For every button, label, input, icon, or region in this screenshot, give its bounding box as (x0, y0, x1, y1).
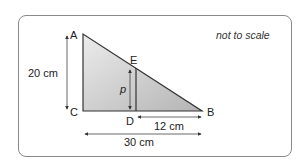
vertex-label-e: E (130, 54, 137, 66)
label-p: p (119, 83, 126, 95)
triangle-diagram: A C B D E 20 cm p 12 cm 30 cm not to sca… (0, 0, 305, 168)
vertex-label-a: A (70, 29, 78, 41)
not-to-scale-note: not to scale (216, 29, 270, 41)
triangle-acb (83, 34, 202, 111)
vertex-label-b: B (207, 106, 214, 118)
vertex-label-d: D (126, 115, 134, 127)
label-length-db: 12 cm (154, 120, 184, 132)
label-length-cb: 30 cm (124, 136, 154, 148)
label-height-ac: 20 cm (28, 67, 58, 79)
vertex-label-c: C (70, 106, 78, 118)
